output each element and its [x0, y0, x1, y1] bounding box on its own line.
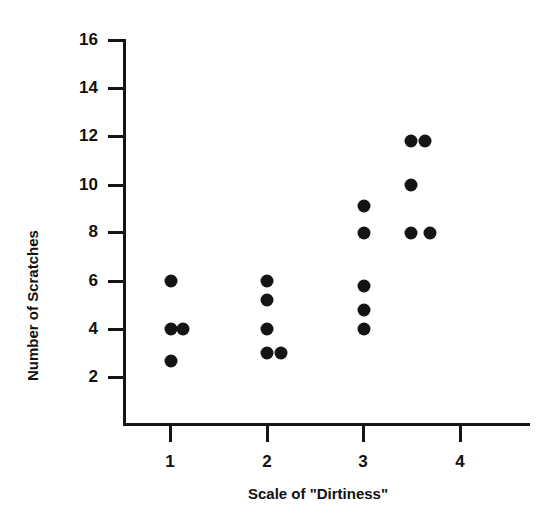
x-tick-label-1: 1 — [165, 452, 174, 472]
data-point — [357, 226, 370, 239]
y-tick-label-16: 16 — [62, 30, 98, 50]
data-point — [261, 275, 274, 288]
data-point — [261, 294, 274, 307]
data-point — [419, 135, 432, 148]
x-axis-title: Scale of "Dirtiness" — [248, 485, 388, 502]
y-tick-label-10: 10 — [62, 175, 98, 195]
y-tick-label-14: 14 — [62, 78, 98, 98]
data-point — [177, 323, 190, 336]
y-axis-title: Number of Scratches — [24, 230, 41, 381]
y-tick-label-2: 2 — [62, 367, 98, 387]
y-tick-label-12: 12 — [62, 126, 98, 146]
data-point — [404, 178, 417, 191]
data-point — [357, 323, 370, 336]
data-point — [404, 226, 417, 239]
data-point — [164, 323, 177, 336]
data-point — [357, 200, 370, 213]
scatter-plot-figure: 16 14 12 10 8 6 4 2 1 2 3 4 Scale of "Di… — [0, 0, 543, 521]
y-tick-label-4: 4 — [62, 319, 98, 339]
data-point — [275, 347, 288, 360]
x-tick-label-3: 3 — [358, 452, 367, 472]
data-point — [357, 304, 370, 317]
x-tick-label-2: 2 — [262, 452, 271, 472]
x-tick-label-4: 4 — [455, 452, 464, 472]
data-point — [164, 354, 177, 367]
data-point — [261, 323, 274, 336]
data-point — [261, 347, 274, 360]
y-tick-label-6: 6 — [62, 271, 98, 291]
data-point — [357, 279, 370, 292]
y-tick-label-8: 8 — [62, 222, 98, 242]
data-point — [164, 275, 177, 288]
data-point — [404, 135, 417, 148]
data-point — [424, 226, 437, 239]
